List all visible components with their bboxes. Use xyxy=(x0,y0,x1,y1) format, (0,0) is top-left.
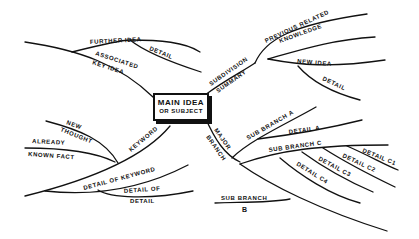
label-detail-of: DETAIL OF xyxy=(124,185,161,194)
label-sub-branch-b-letter: B xyxy=(242,206,248,213)
label-new-idea: NEW IDEA xyxy=(297,58,332,67)
label-known-fact: KNOWN FACT xyxy=(28,151,75,160)
label-detail-a: DETAIL A xyxy=(288,125,320,135)
main-idea-title: MAIN IDEA xyxy=(155,98,207,107)
label-already: ALREADY xyxy=(32,138,65,146)
label-new-idea-detail: DETAIL xyxy=(322,75,347,91)
mind-map-canvas: FURTHER IDEA DETAIL ASSOCIATED KEY IDEA … xyxy=(0,0,419,239)
main-idea-box: MAIN IDEA OR SUBJECT xyxy=(153,93,209,121)
label-sub-branch-b: SUB BRANCH xyxy=(221,195,267,201)
branch-associated-key-idea xyxy=(25,42,153,97)
label-detail-of-detail: DETAIL xyxy=(130,198,155,204)
main-idea-subtitle: OR SUBJECT xyxy=(155,108,207,114)
label-sub-branch-a: SUB BRANCH A xyxy=(246,109,295,141)
